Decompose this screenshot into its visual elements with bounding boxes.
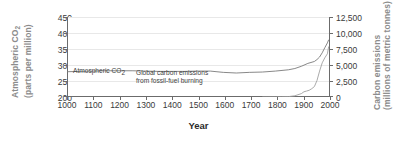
left-axis-title-line1: Atmospheric CO — [10, 30, 20, 98]
right-tick-label-10000: 10,000 — [336, 30, 374, 39]
annotation-emissions-line2: from fossil-fuel burning — [136, 77, 208, 85]
right-tick-label-7500: 7,500 — [336, 46, 374, 55]
plot-area — [67, 17, 330, 97]
right-axis-title: Carbon emissions (millions of metric ton… — [372, 14, 398, 110]
x-axis-title: Year — [67, 120, 330, 131]
right-tick-label-2500: 2,500 — [336, 78, 374, 87]
x-tick-1700 — [251, 97, 252, 100]
right-tick-label-5000: 5,000 — [336, 62, 374, 71]
annotation-atmospheric-co2: Atmospheric CO2 — [73, 67, 125, 76]
x-tick-2000 — [330, 97, 331, 100]
right-tick-label-12500: 12,500 — [336, 14, 374, 23]
right-tick-5000 — [330, 65, 333, 66]
right-tick-7500 — [330, 49, 333, 50]
x-tick-1200 — [120, 97, 121, 100]
co2-emissions-chart: Atmospheric CO2 (parts per million) Carb… — [0, 0, 406, 141]
right-tick-2500 — [330, 81, 333, 82]
x-tick-1500 — [199, 97, 200, 100]
left-axis-title-line2: (parts per million) — [23, 14, 33, 98]
annotation-co2-subscript: 2 — [121, 69, 125, 76]
right-axis-title-line2: (millions of metric tonnes) — [382, 14, 392, 110]
annotation-co2-text: Atmospheric CO — [73, 67, 121, 74]
x-tick-1400 — [172, 97, 173, 100]
data-curves — [67, 17, 330, 97]
left-axis-title-subscript: 2 — [14, 26, 21, 30]
right-tick-12500 — [330, 17, 333, 18]
x-tick-1900 — [304, 97, 305, 100]
x-tick-label-2000: 2000 — [313, 101, 347, 110]
right-tick-10000 — [330, 33, 333, 34]
x-tick-1000 — [67, 97, 68, 100]
annotation-global-emissions: Global carbon emissions from fossil-fuel… — [136, 69, 208, 84]
x-tick-1800 — [277, 97, 278, 100]
x-tick-1100 — [93, 97, 94, 100]
annotation-emissions-line1: Global carbon emissions — [136, 69, 208, 77]
left-axis-title: Atmospheric CO2 (parts per million) — [10, 14, 36, 98]
x-tick-1300 — [146, 97, 147, 100]
x-tick-1600 — [225, 97, 226, 100]
